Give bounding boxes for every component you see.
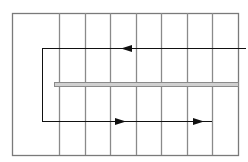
- background: [0, 0, 248, 162]
- double-bar: [55, 83, 239, 87]
- double-bar-rect: [55, 83, 239, 87]
- flow-diagram: [0, 0, 248, 162]
